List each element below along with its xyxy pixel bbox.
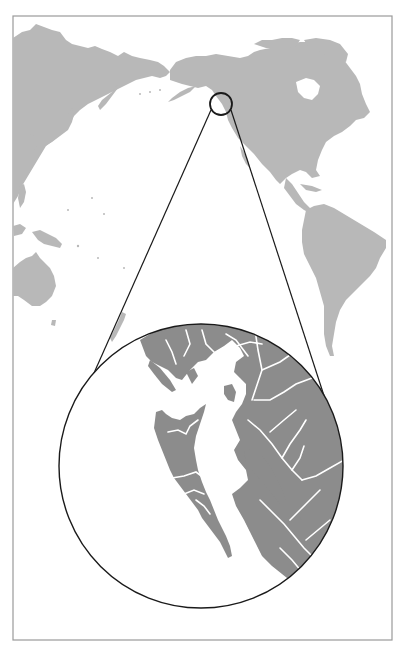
locator-map [0, 0, 403, 653]
